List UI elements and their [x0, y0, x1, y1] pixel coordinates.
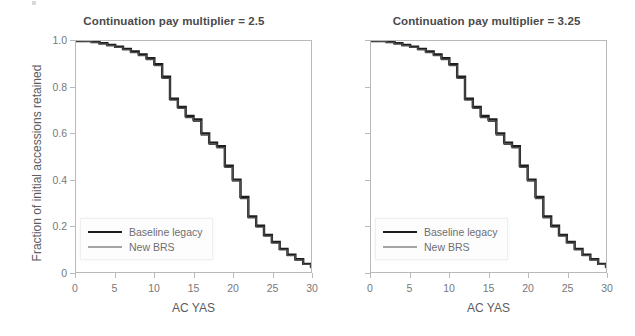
y-tick-mark: [365, 133, 370, 134]
x-axis-label-right: AC YAS: [370, 301, 607, 315]
x-tick-label: 10: [148, 282, 160, 294]
legend-item-new-brs: New BRS: [88, 239, 203, 254]
x-tick-mark: [312, 273, 313, 278]
x-tick-label: 15: [188, 282, 200, 294]
x-tick-mark: [154, 273, 155, 278]
x-tick-label: 0: [367, 282, 373, 294]
x-tick-label: 5: [407, 282, 413, 294]
x-tick-label: 30: [306, 282, 318, 294]
x-tick-label: 0: [72, 282, 78, 294]
legend-item-new-brs: New BRS: [383, 239, 498, 254]
x-tick-mark: [607, 273, 608, 278]
legend-right: Baseline legacy New BRS: [375, 218, 508, 260]
y-tick-mark: [70, 40, 75, 41]
x-tick-label: 10: [443, 282, 455, 294]
y-tick-label: 0.2: [27, 220, 67, 232]
y-tick-label: 0: [27, 267, 67, 279]
panel-title-right: Continuation pay multiplier = 3.25: [330, 15, 635, 27]
y-tick-mark: [70, 133, 75, 134]
legend-item-baseline-legacy: Baseline legacy: [88, 224, 203, 239]
x-tick-label: 20: [522, 282, 534, 294]
chart-panel-left: Continuation pay multiplier = 2.5 Fracti…: [0, 0, 330, 336]
y-tick-mark: [70, 226, 75, 227]
x-tick-label: 25: [267, 282, 279, 294]
legend-label-baseline-legacy: Baseline legacy: [129, 226, 203, 238]
x-tick-label: 15: [483, 282, 495, 294]
y-tick-label: 1.0: [27, 34, 67, 46]
chart-panel-right: Continuation pay multiplier = 3.25 05101…: [330, 0, 635, 336]
legend-label-baseline-legacy: Baseline legacy: [424, 226, 498, 238]
x-tick-label: 20: [227, 282, 239, 294]
x-tick-mark: [233, 273, 234, 278]
y-tick-mark: [365, 180, 370, 181]
y-tick-label: 0.8: [27, 81, 67, 93]
x-tick-mark: [410, 273, 411, 278]
legend-label-new-brs: New BRS: [129, 241, 175, 253]
legend-line-icon-baseline-legacy: [88, 227, 122, 237]
x-tick-mark: [75, 273, 76, 278]
y-tick-mark: [365, 226, 370, 227]
x-tick-mark: [115, 273, 116, 278]
y-tick-label: 0.4: [27, 174, 67, 186]
x-axis-label-left: AC YAS: [75, 301, 312, 315]
y-tick-label: 0.6: [27, 127, 67, 139]
y-tick-mark: [365, 40, 370, 41]
x-tick-mark: [370, 273, 371, 278]
x-tick-mark: [449, 273, 450, 278]
figure-canvas: Continuation pay multiplier = 2.5 Fracti…: [0, 0, 635, 336]
x-tick-mark: [273, 273, 274, 278]
x-tick-label: 30: [601, 282, 613, 294]
x-tick-mark: [489, 273, 490, 278]
legend-label-new-brs: New BRS: [424, 241, 470, 253]
y-tick-mark: [70, 87, 75, 88]
x-tick-label: 5: [112, 282, 118, 294]
y-tick-mark: [365, 87, 370, 88]
x-tick-mark: [528, 273, 529, 278]
x-tick-mark: [194, 273, 195, 278]
panel-title-left: Continuation pay multiplier = 2.5: [0, 15, 330, 27]
legend-line-icon-new-brs: [88, 242, 122, 252]
legend-line-icon-new-brs: [383, 242, 417, 252]
x-tick-label: 25: [562, 282, 574, 294]
legend-left: Baseline legacy New BRS: [80, 218, 213, 260]
legend-line-icon-baseline-legacy: [383, 227, 417, 237]
legend-item-baseline-legacy: Baseline legacy: [383, 224, 498, 239]
y-tick-mark: [70, 180, 75, 181]
x-tick-mark: [568, 273, 569, 278]
